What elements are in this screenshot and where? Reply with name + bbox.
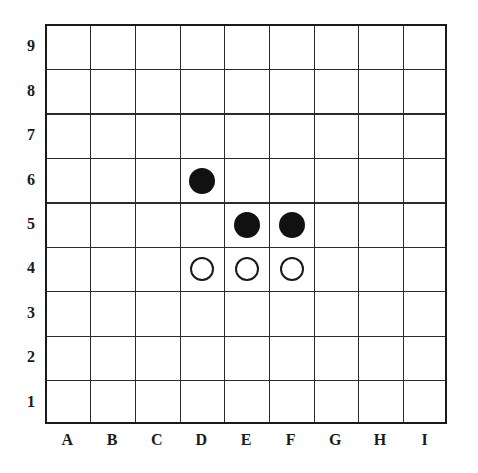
row-label-9: 9 xyxy=(22,37,40,55)
black-stone-icon xyxy=(234,212,260,238)
column-label-c: C xyxy=(142,431,172,449)
column-label-b: B xyxy=(97,431,127,449)
grid-line-horizontal xyxy=(47,69,445,70)
grid-line-horizontal xyxy=(47,247,445,248)
grid-line-vertical xyxy=(180,26,181,422)
grid-line-horizontal xyxy=(47,202,445,203)
row-label-3: 3 xyxy=(22,304,40,322)
grid-line-vertical xyxy=(90,26,91,422)
row-label-5: 5 xyxy=(22,215,40,233)
black-stone-icon xyxy=(279,212,305,238)
row-label-6: 6 xyxy=(22,171,40,189)
grid-line-vertical xyxy=(358,26,359,422)
black-stone-icon xyxy=(189,168,215,194)
grid-line-horizontal xyxy=(47,291,445,292)
column-label-h: H xyxy=(365,431,395,449)
column-label-d: D xyxy=(186,431,216,449)
grid-line-horizontal xyxy=(47,158,445,159)
grid-line-vertical xyxy=(224,26,225,422)
grid-line-vertical xyxy=(135,26,136,422)
row-label-4: 4 xyxy=(22,259,40,277)
grid-line-vertical xyxy=(403,26,404,422)
column-label-f: F xyxy=(276,431,306,449)
white-stone-icon xyxy=(280,257,304,281)
row-label-7: 7 xyxy=(22,126,40,144)
grid-line-vertical xyxy=(314,26,315,422)
grid-line-horizontal xyxy=(47,336,445,337)
grid-line-vertical xyxy=(269,26,270,422)
grid-line-horizontal xyxy=(47,380,445,381)
column-label-a: A xyxy=(52,431,82,449)
row-label-8: 8 xyxy=(22,82,40,100)
row-label-2: 2 xyxy=(22,348,40,366)
column-label-e: E xyxy=(231,431,261,449)
row-label-1: 1 xyxy=(22,393,40,411)
grid-line-horizontal xyxy=(47,113,445,114)
column-label-i: I xyxy=(410,431,440,449)
column-label-g: G xyxy=(320,431,350,449)
